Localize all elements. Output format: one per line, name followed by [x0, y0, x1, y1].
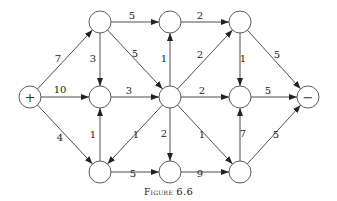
node-circle: [89, 11, 111, 33]
caption-prefix: Figure: [144, 187, 173, 197]
edge-weight-label: 5: [132, 48, 138, 59]
node-e: [159, 86, 181, 108]
node-circle: [229, 11, 251, 33]
edge-weight-label: 1: [161, 53, 167, 64]
node-circle: [159, 86, 181, 108]
edge-weight-label: 1: [199, 129, 205, 140]
node-a: [89, 11, 111, 33]
edge-source-to-a: [38, 30, 93, 89]
edge-a-to-e: [108, 30, 163, 89]
node-sink: −: [297, 86, 319, 108]
node-circle: [159, 161, 181, 183]
edge-weight-label: 5: [265, 85, 271, 96]
node-f: [229, 86, 251, 108]
caption-number: 6.6: [176, 186, 193, 197]
edge-source-to-g: [38, 105, 93, 164]
edge-e-to-c: [178, 30, 233, 89]
figure-caption: Figure 6.6: [0, 186, 337, 197]
edge-weight-label: 2: [197, 49, 203, 60]
node-g: [89, 161, 111, 183]
edge-weight-label: 3: [90, 53, 96, 64]
node-circle: [159, 11, 181, 33]
edge-weight-label: 2: [161, 128, 167, 139]
edge-weight-label: 1: [133, 129, 139, 140]
edge-weight-label: 3: [126, 85, 132, 96]
edge-weight-label: 5: [273, 129, 279, 140]
node-d: [89, 86, 111, 108]
edge-weight-label: 2: [197, 10, 203, 21]
node-circle: [89, 86, 111, 108]
edge-weight-label: 7: [240, 128, 246, 139]
edge-weight-label: 1: [90, 129, 96, 140]
edge-weight-label: 5: [129, 10, 135, 21]
node-h: [159, 161, 181, 183]
node-circle: [229, 86, 251, 108]
edge-weight-label: 9: [197, 168, 203, 179]
edge-weight-label: 7: [55, 53, 61, 64]
network-flow-diagram: 71045353115122221155795 +−: [0, 0, 337, 201]
edge-weight-label: 10: [54, 84, 67, 95]
minus-icon: −: [303, 90, 314, 105]
node-circle: [229, 161, 251, 183]
edge-weight-label: 4: [57, 132, 63, 143]
edge-weight-label: 5: [274, 49, 280, 60]
node-circle: [89, 161, 111, 183]
edge-weight-label: 1: [240, 53, 246, 64]
plus-icon: +: [25, 90, 36, 105]
node-b: [159, 11, 181, 33]
node-i: [229, 161, 251, 183]
edge-weight-label: 2: [199, 85, 205, 96]
node-source: +: [19, 86, 41, 108]
node-c: [229, 11, 251, 33]
edge-weight-label: 5: [130, 168, 136, 179]
